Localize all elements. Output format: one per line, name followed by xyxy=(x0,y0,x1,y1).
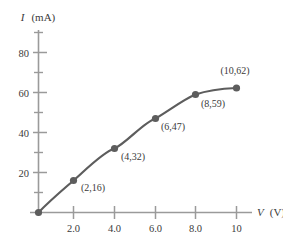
data-point-label-8-59: (8,59) xyxy=(201,98,225,110)
data-point-3[interactable] xyxy=(152,115,159,122)
data-point-label-10-62: (10,62) xyxy=(220,65,249,77)
iv-curve-figure: 80 60 40 20 2.0 4.0 6.0 8.0 10 I (mA) V … xyxy=(0,0,283,240)
y-axis-unit: (mA) xyxy=(31,11,55,24)
x-axis-unit: (V) xyxy=(270,206,283,219)
data-point-4[interactable] xyxy=(192,91,199,98)
x-axis-title: V (V) xyxy=(257,202,283,219)
data-point-label-4-32: (4,32) xyxy=(121,151,145,163)
data-point-label-2-16: (2,16) xyxy=(81,182,105,194)
x-tick-label-10: 10 xyxy=(231,223,242,234)
x-tick-label-2: 2.0 xyxy=(67,223,80,234)
x-tick-label-8: 8.0 xyxy=(189,223,202,234)
x-tick-label-6: 6.0 xyxy=(149,223,162,234)
data-point-1[interactable] xyxy=(70,177,77,184)
y-axis-title: I (mA) xyxy=(20,7,56,24)
chart-canvas: 80 60 40 20 2.0 4.0 6.0 8.0 10 I (mA) V … xyxy=(0,0,283,240)
x-tick-labels: 2.0 4.0 6.0 8.0 10 xyxy=(67,223,242,234)
data-point-0[interactable] xyxy=(35,209,42,216)
y-tick-label-60: 60 xyxy=(19,88,30,99)
y-axis-symbol: I xyxy=(20,11,26,23)
x-axis-symbol: V xyxy=(257,206,265,218)
y-tick-label-80: 80 xyxy=(19,48,30,59)
y-tick-label-20: 20 xyxy=(19,168,30,179)
x-tick-label-4: 4.0 xyxy=(108,223,121,234)
y-tick-label-40: 40 xyxy=(19,128,30,139)
data-point-2[interactable] xyxy=(111,145,118,152)
data-point-label-6-47: (6,47) xyxy=(161,121,185,133)
data-point-annotations: (2,16) (4,32) (6,47) (8,59) (10,62) xyxy=(81,65,250,194)
data-point-5[interactable] xyxy=(233,84,240,91)
y-tick-labels: 80 60 40 20 xyxy=(19,48,30,179)
